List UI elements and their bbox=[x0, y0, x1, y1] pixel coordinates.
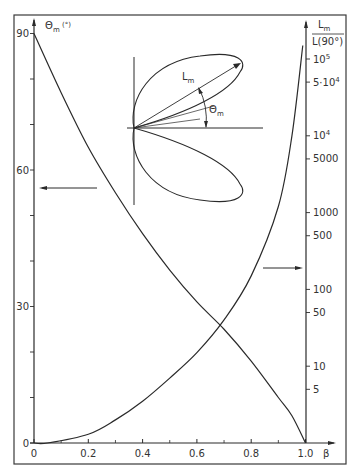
inset-lower-lobe bbox=[133, 128, 243, 202]
x-tick-label: 0.4 bbox=[135, 448, 151, 459]
right-tick-label: 5 bbox=[313, 384, 319, 395]
right-tick-label: 5000 bbox=[313, 153, 338, 164]
left-tick-label: 90 bbox=[16, 28, 29, 39]
left-tick-label: 0 bbox=[23, 438, 29, 449]
x-tick-label: 0.6 bbox=[189, 448, 205, 459]
right-axis-label-numerator: Lm bbox=[318, 19, 331, 33]
inset-radiation-diagram: Lm Θm bbox=[127, 54, 263, 205]
left-tick-label: 60 bbox=[16, 165, 29, 176]
x-ticks: 00.20.40.60.81.0 bbox=[31, 439, 314, 459]
inset-ray bbox=[134, 119, 200, 128]
right-tick-label: 105 bbox=[313, 53, 330, 65]
inset-angle-arrowhead-icon bbox=[198, 87, 203, 94]
theta-m-curve bbox=[34, 34, 306, 444]
right-ticks: 51050100500100050001045·104105 bbox=[306, 53, 340, 395]
right-tick-label: 500 bbox=[313, 230, 332, 241]
left-tick-label: 30 bbox=[16, 301, 29, 312]
inset-ray bbox=[134, 106, 214, 128]
right-tick-label: 1000 bbox=[313, 207, 338, 218]
inset-theta-label: Θm bbox=[209, 104, 224, 118]
frame bbox=[14, 15, 346, 464]
inset-upper-lobe bbox=[133, 54, 243, 128]
x-axis-arrow-icon bbox=[328, 441, 336, 445]
right-axis-label-denominator: L(90°) bbox=[312, 36, 343, 47]
x-tick-label: 0.8 bbox=[243, 448, 259, 459]
inset-angle-arrowhead-icon bbox=[204, 121, 208, 128]
right-tick-label: 100 bbox=[313, 284, 332, 295]
right-tick-label: 104 bbox=[313, 129, 331, 141]
left-ticks: 0306090 bbox=[16, 28, 34, 449]
x-tick-label: 0 bbox=[31, 448, 37, 459]
chart-svg: 00.20.40.60.81.0 0306090 510501005001000… bbox=[0, 0, 358, 475]
right-tick-label: 5·104 bbox=[313, 76, 340, 88]
inset-lm-arrowhead-icon bbox=[233, 63, 241, 69]
x-tick-label: 1.0 bbox=[298, 448, 314, 459]
left-axis-arrow-icon bbox=[32, 18, 36, 26]
right-tick-label: 10 bbox=[313, 361, 326, 372]
right-indicator-arrowhead-icon bbox=[295, 266, 303, 270]
chart-figure: 00.20.40.60.81.0 0306090 510501005001000… bbox=[0, 0, 358, 475]
right-tick-label: 50 bbox=[313, 307, 326, 318]
inset-lm-label: Lm bbox=[182, 71, 195, 85]
lm-ratio-curve bbox=[34, 45, 303, 443]
x-tick-label: 0.2 bbox=[80, 448, 96, 459]
left-indicator-arrowhead-icon bbox=[39, 186, 47, 190]
left-axis-label: Θm (°) bbox=[45, 20, 71, 34]
x-axis-label: β bbox=[323, 448, 329, 459]
right-axis-arrow-icon bbox=[304, 20, 308, 28]
